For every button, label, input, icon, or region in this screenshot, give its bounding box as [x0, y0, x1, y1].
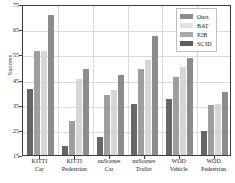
y-tick-label: 55 — [3, 52, 19, 58]
bar — [180, 67, 186, 155]
bar — [145, 60, 151, 155]
x-tick-label-line: KITTI — [62, 158, 87, 166]
bar — [111, 90, 117, 155]
x-tick-mark — [109, 156, 110, 159]
bar — [201, 131, 207, 155]
x-tick-label: WODVehicle — [170, 158, 188, 173]
x-tick-mark — [39, 156, 40, 159]
legend-swatch — [180, 14, 193, 19]
bar-chart: Success 15253545556575 KITTICarKITTIPede… — [0, 0, 235, 183]
legend-label: P2B — [197, 32, 207, 38]
bar — [76, 79, 82, 156]
bar — [27, 89, 33, 155]
bar — [69, 121, 75, 155]
x-tick-label: KITTIPedestrian — [62, 158, 87, 173]
bar — [34, 51, 40, 155]
bar — [131, 104, 137, 155]
legend-item[interactable]: Ours — [180, 12, 212, 21]
bar — [83, 69, 89, 155]
bar — [48, 15, 54, 155]
x-tick-label: KITTICar — [32, 158, 48, 173]
bar — [173, 77, 179, 155]
bar — [152, 36, 158, 155]
legend-item[interactable]: P2B — [180, 30, 212, 39]
x-tick-label-line: Vehicle — [170, 166, 188, 174]
bar-group — [23, 6, 58, 155]
bar — [187, 58, 193, 155]
legend-item[interactable]: SC3D — [180, 39, 212, 48]
bar — [138, 69, 144, 155]
x-tick-label: nuScenesTrailer — [133, 158, 156, 173]
bar-group — [93, 6, 128, 155]
x-tick-label: WODPedestrian — [201, 158, 226, 173]
bar — [104, 95, 110, 155]
x-tick-label-line: Pedestrian — [201, 166, 226, 174]
y-axis-title: Success — [7, 37, 13, 93]
x-tick-label-line: nuScenes — [133, 158, 156, 166]
y-tick-label: 65 — [3, 27, 19, 33]
x-tick-mark — [214, 156, 215, 159]
bar — [62, 146, 68, 155]
y-tick-label: 35 — [3, 103, 19, 109]
legend-item[interactable]: BAT — [180, 21, 212, 30]
x-tick-label-line: KITTI — [32, 158, 48, 166]
legend-label: Ours — [197, 14, 209, 20]
x-tick-label: nuScenesCar — [98, 158, 121, 173]
bar — [166, 99, 172, 155]
bar — [208, 105, 214, 155]
legend-swatch — [180, 23, 193, 28]
bar — [118, 75, 124, 155]
x-tick-label-line: WOD — [170, 158, 188, 166]
x-tick-label-line: Car — [98, 166, 121, 174]
x-tick-mark — [144, 156, 145, 159]
bar — [97, 137, 103, 155]
x-tick-label-line: Trailer — [133, 166, 156, 174]
bar — [41, 51, 47, 155]
legend-swatch — [180, 32, 193, 37]
x-tick-label-line: Car — [32, 166, 48, 174]
bar-group — [128, 6, 163, 155]
bar-group — [58, 6, 93, 155]
bar — [222, 92, 228, 155]
x-tick-label-line: WOD — [201, 158, 226, 166]
bar — [215, 104, 221, 155]
legend-swatch — [180, 41, 193, 46]
x-tick-label-line: Pedestrian — [62, 166, 87, 174]
y-tick-label: 45 — [3, 78, 19, 84]
y-tick-label: 25 — [3, 128, 19, 134]
y-tick-label: 75 — [3, 2, 19, 8]
y-tick-label: 15 — [3, 153, 19, 159]
legend-label: BAT — [197, 23, 208, 29]
x-tick-mark — [179, 156, 180, 159]
x-tick-mark — [74, 156, 75, 159]
legend-label: SC3D — [197, 41, 212, 47]
legend: OursBATP2BSC3D — [176, 8, 217, 52]
x-tick-label-line: nuScenes — [98, 158, 121, 166]
y-tick-mark — [19, 156, 22, 157]
